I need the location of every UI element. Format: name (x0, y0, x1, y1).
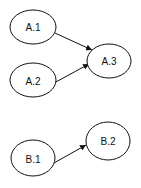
node-a3-label: A.3 (101, 56, 116, 67)
node-b1: B.1 (11, 140, 55, 176)
node-b2-label: B.2 (100, 136, 115, 147)
edge-a2-to-a3 (54, 64, 89, 83)
node-b1-label: B.1 (25, 154, 40, 165)
node-b2: B.2 (86, 122, 130, 160)
node-a1-label: A.1 (25, 22, 40, 33)
node-a2-label: A.2 (25, 76, 40, 87)
node-a1: A.1 (10, 10, 56, 44)
edge-b1-to-b2 (54, 145, 86, 163)
diagram-canvas: A.1 A.2 A.3 B.1 B.2 (0, 0, 141, 188)
node-a2: A.2 (10, 63, 56, 97)
node-a3: A.3 (87, 44, 131, 78)
edge-a1-to-a3 (55, 33, 92, 50)
